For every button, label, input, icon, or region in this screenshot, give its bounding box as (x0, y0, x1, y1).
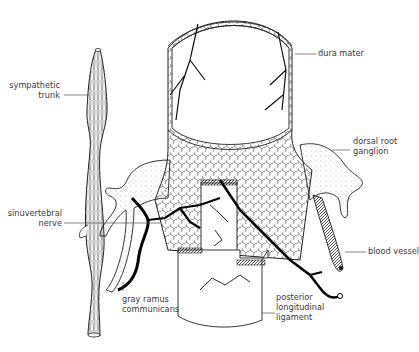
label-line: posterior (276, 292, 324, 302)
label-line: dorsal root (353, 136, 397, 146)
label-line: sinuvertebral (0, 208, 62, 218)
label-line: communicans (122, 304, 179, 314)
label-line: ganglion (353, 146, 397, 156)
label-line: blood vessel (368, 246, 419, 256)
label-line: dura mater (318, 48, 364, 58)
label-gray-ramus-communicans: gray ramus communicans (122, 294, 179, 314)
label-line: trunk (0, 90, 60, 100)
label-posterior-longitudinal-ligament: posterior longitudinal ligament (276, 292, 324, 322)
label-dorsal-root-ganglion: dorsal root ganglion (353, 136, 397, 156)
label-sinuvertebral-nerve: sinuvertebral nerve (0, 208, 62, 228)
blood-vessel (313, 195, 343, 271)
label-sympathetic-trunk: sympathetic trunk (0, 80, 60, 100)
sympathetic-trunk (79, 49, 107, 338)
label-blood-vessel: blood vessel (368, 246, 419, 256)
label-line: sympathetic (0, 80, 60, 90)
label-line: nerve (0, 218, 62, 228)
label-dura-mater: dura mater (318, 48, 364, 58)
label-line: longitudinal (276, 302, 324, 312)
label-line: gray ramus (122, 294, 179, 304)
label-line: ligament (276, 312, 324, 322)
